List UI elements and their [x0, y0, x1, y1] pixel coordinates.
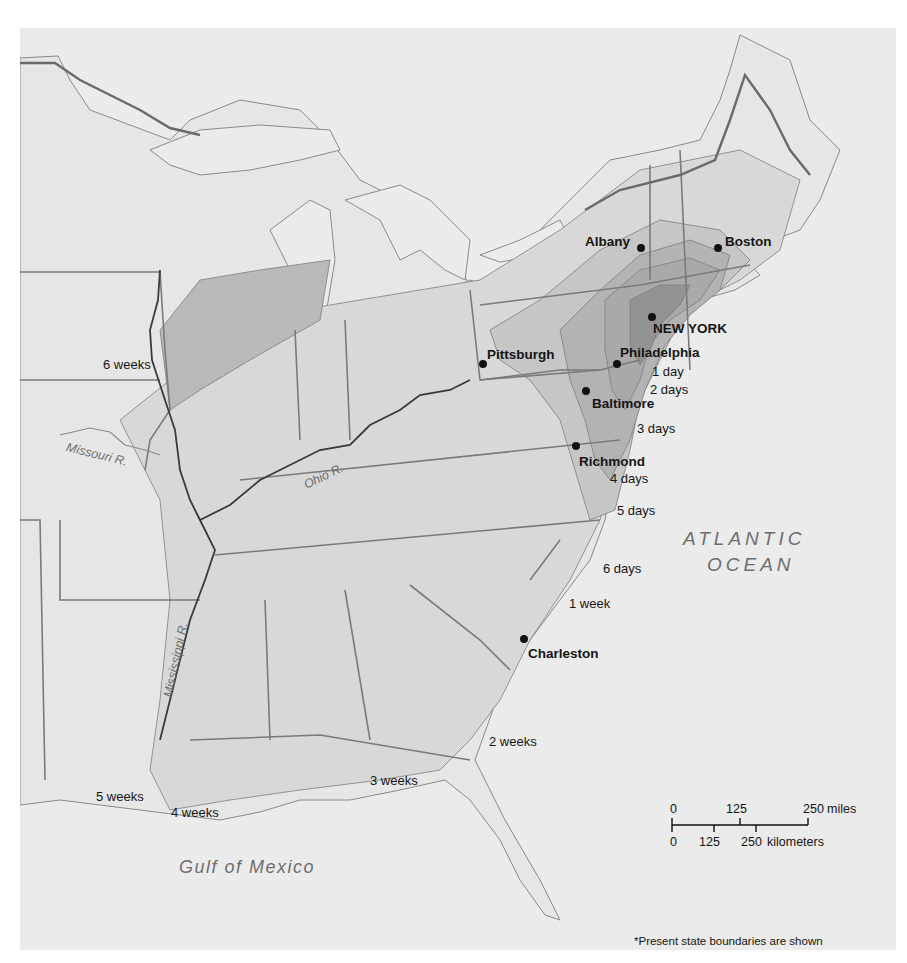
contour-label-5-weeks: 5 weeks — [96, 790, 144, 803]
contour-label-3-weeks: 3 weeks — [370, 774, 418, 787]
city-label-albany: Albany — [585, 235, 630, 249]
city-dot-boston — [714, 244, 722, 252]
city-dot-philadelphia — [613, 360, 621, 368]
city-label-baltimore: Baltimore — [592, 397, 654, 411]
city-label-pittsburgh: Pittsburgh — [487, 348, 555, 362]
city-label-boston: Boston — [725, 235, 772, 249]
city-dot-pittsburgh — [479, 360, 487, 368]
city-dot-albany — [637, 244, 645, 252]
atlantic-ocean-label-line2: OCEAN — [707, 555, 795, 574]
gulf-of-mexico-label: Gulf of Mexico — [179, 858, 315, 876]
scale-km-unit: kilometers — [767, 836, 824, 849]
city-dot-richmond — [572, 442, 580, 450]
contour-label-5-days: 5 days — [617, 504, 655, 517]
contour-label-6-days: 6 days — [603, 562, 641, 575]
contour-label-3-days: 3 days — [637, 422, 675, 435]
scale-miles-tick-0: 0 — [670, 803, 677, 816]
city-label-philadelphia: Philadelphia — [620, 346, 700, 360]
city-label-charleston: Charleston — [528, 647, 599, 661]
scale-bar-line — [670, 816, 820, 834]
scale-km-tick-0: 0 — [670, 836, 677, 849]
city-dot-baltimore — [582, 387, 590, 395]
city-dot-new-york — [648, 313, 656, 321]
scale-bar: 0 125 250 miles 0 125 250 kilometers — [670, 803, 890, 863]
contour-label-2-days: 2 days — [650, 383, 688, 396]
footnote: *Present state boundaries are shown — [634, 936, 823, 948]
scale-miles-tick-125: 125 — [726, 803, 747, 816]
atlantic-ocean-label-line1: ATLANTIC — [683, 529, 805, 548]
scale-km-tick-125: 125 — [699, 836, 720, 849]
city-label-richmond: Richmond — [579, 455, 645, 469]
city-label-new-york: NEW YORK — [653, 322, 727, 336]
contour-label-4-days: 4 days — [610, 472, 648, 485]
scale-km-tick-250: 250 — [741, 836, 762, 849]
contour-label-6-weeks: 6 weeks — [103, 358, 151, 371]
contour-label-4-weeks: 4 weeks — [171, 806, 219, 819]
contour-label-2-weeks: 2 weeks — [489, 735, 537, 748]
map-frame: Albany Boston NEW YORK Pittsburgh Philad… — [20, 28, 896, 950]
scale-miles-unit: miles — [827, 803, 856, 816]
scale-miles-tick-250: 250 — [803, 803, 824, 816]
contour-label-1-day: 1 day — [652, 365, 684, 378]
city-dot-charleston — [520, 635, 528, 643]
contour-label-1-week: 1 week — [569, 597, 610, 610]
